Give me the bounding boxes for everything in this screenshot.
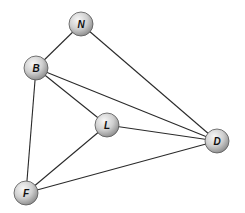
node-label: L [104,120,110,131]
node-d: D [205,129,229,153]
node-label: B [32,63,39,74]
node-n: N [69,12,93,36]
edge-f-d [26,141,217,193]
node-label: D [213,136,220,147]
graph-diagram: NBLDF [0,0,245,213]
edge-b-f [26,68,36,193]
edge-l-f [26,125,107,193]
node-b: B [24,56,48,80]
edge-b-l [36,68,107,125]
edge-layer [26,24,217,193]
edge-b-d [36,68,217,141]
node-l: L [95,113,119,137]
node-f: F [14,181,38,205]
node-label: F [23,188,30,199]
node-label: N [77,19,85,30]
